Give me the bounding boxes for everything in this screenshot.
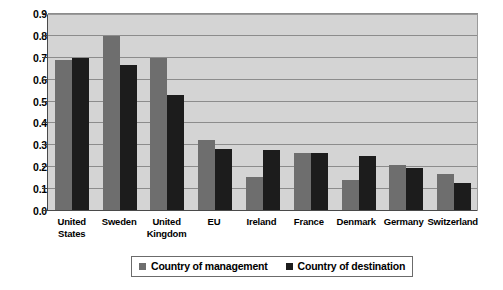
y-tick-mark	[42, 35, 47, 36]
bar	[150, 58, 167, 210]
y-tick-mark	[42, 210, 47, 211]
y-tick-label: 0.7	[7, 52, 47, 64]
y-tick-label: 0.4	[7, 117, 47, 129]
legend-swatch-icon	[139, 263, 146, 270]
y-tick-label: 0.5	[7, 96, 47, 108]
y-tick-label: 0.1	[7, 183, 47, 195]
bar-group	[191, 14, 239, 210]
bar	[167, 95, 184, 210]
legend-label: Country of management	[151, 260, 268, 272]
bar-group	[287, 14, 335, 210]
y-axis: 0.00.10.20.30.40.50.60.70.80.9	[0, 0, 47, 290]
chart-container: 0.00.10.20.30.40.50.60.70.80.9 UnitedSta…	[0, 0, 503, 290]
x-axis-label: France	[285, 216, 332, 239]
y-tick-mark	[42, 188, 47, 189]
x-axis-label: Sweden	[95, 216, 142, 239]
chart-legend: Country of managementCountry of destinat…	[131, 256, 413, 277]
bar	[454, 183, 471, 210]
y-tick-label: 0.2	[7, 161, 47, 173]
x-axis-label: UnitedStates	[48, 216, 95, 239]
y-tick-mark	[42, 57, 47, 58]
y-tick-label: 0.3	[7, 139, 47, 151]
y-tick-mark	[42, 101, 47, 102]
legend-item: Country of management	[139, 260, 268, 272]
x-axis-labels: UnitedStatesSwedenUnitedKingdomEUIreland…	[48, 216, 478, 239]
y-tick-mark	[42, 166, 47, 167]
x-axis-label: EU	[190, 216, 237, 239]
legend-item: Country of destination	[286, 260, 406, 272]
bar	[342, 180, 359, 210]
bar	[103, 36, 120, 210]
bar	[437, 174, 454, 210]
legend-swatch-icon	[286, 263, 293, 270]
bar	[294, 153, 311, 210]
bar-groups	[48, 14, 478, 210]
bar	[55, 60, 72, 210]
bar	[263, 150, 280, 210]
y-tick-mark	[42, 122, 47, 123]
bar	[389, 165, 406, 210]
y-tick-label: 0.8	[7, 30, 47, 42]
x-axis-label: Switzerland	[427, 216, 478, 239]
legend-label: Country of destination	[298, 260, 406, 272]
bar-group	[335, 14, 383, 210]
x-axis-label: Germany	[380, 216, 427, 239]
y-tick-label: 0.0	[7, 205, 47, 217]
y-tick-mark	[42, 79, 47, 80]
bar-group	[96, 14, 144, 210]
y-tick-label: 0.9	[7, 8, 47, 20]
bar-group	[144, 14, 192, 210]
bar-group	[382, 14, 430, 210]
bar	[72, 58, 89, 210]
bar-group	[430, 14, 478, 210]
bar	[215, 149, 232, 210]
bar	[359, 156, 376, 210]
bar-group	[48, 14, 96, 210]
y-tick-label: 0.6	[7, 74, 47, 86]
bar	[120, 65, 137, 210]
bar-group	[239, 14, 287, 210]
x-axis-label: Ireland	[238, 216, 285, 239]
x-axis-label: Denmark	[333, 216, 380, 239]
bar	[406, 168, 423, 210]
bar	[311, 153, 328, 210]
bar	[198, 140, 215, 210]
y-tick-mark	[42, 13, 47, 14]
x-axis-label: UnitedKingdom	[143, 216, 190, 239]
bar	[246, 177, 263, 210]
y-tick-mark	[42, 144, 47, 145]
